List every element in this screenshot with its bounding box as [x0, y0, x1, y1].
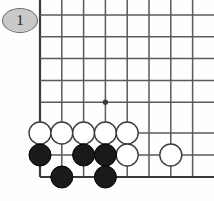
black-stone-0 — [29, 144, 51, 166]
diagram-number-label: 1 — [16, 13, 24, 28]
go-diagram-figure: 1 — [0, 0, 214, 201]
white-stone-4 — [116, 122, 138, 144]
white-stone-2 — [73, 122, 95, 144]
black-stone-2 — [94, 144, 116, 166]
black-stone-3 — [51, 166, 73, 188]
white-stone-3 — [94, 122, 116, 144]
star-point-0 — [103, 100, 108, 105]
white-stone-0 — [29, 122, 51, 144]
white-stone-6 — [160, 144, 182, 166]
black-stone-1 — [73, 144, 95, 166]
white-stone-1 — [51, 122, 73, 144]
diagram-number-badge: 1 — [2, 8, 38, 33]
black-stone-4 — [94, 166, 116, 188]
white-stone-5 — [116, 144, 138, 166]
go-board[interactable] — [0, 0, 214, 201]
board-star-points — [103, 100, 108, 105]
